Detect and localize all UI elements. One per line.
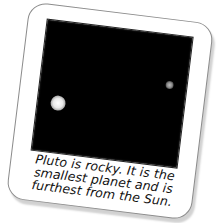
pluto-planet xyxy=(50,95,67,112)
distant-moon xyxy=(165,81,174,90)
polaroid-card: Pluto is rocky. It is the smallest plane… xyxy=(6,1,215,220)
space-photo xyxy=(32,20,193,168)
